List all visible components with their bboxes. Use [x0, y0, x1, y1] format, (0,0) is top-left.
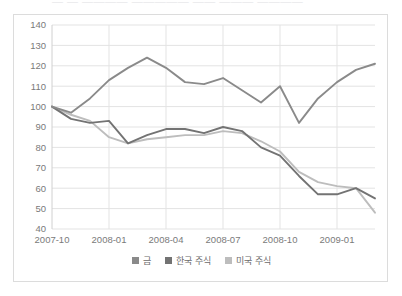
- legend-item-korea-stocks[interactable]: 한국 주식: [165, 254, 211, 267]
- plot-area: 4050607080901001101201301402007-102008-0…: [14, 15, 389, 255]
- y-axis-tick-label: 120: [30, 60, 46, 71]
- y-axis-tick-label: 70: [35, 162, 46, 173]
- legend-swatch-icon: [165, 257, 172, 264]
- x-axis-tick-label: 2008-07: [206, 234, 241, 245]
- chart-legend: 금 한국 주식 미국 주식: [14, 254, 389, 267]
- y-axis-tick-label: 100: [30, 101, 46, 112]
- x-axis-tick-label: 2009-01: [320, 234, 355, 245]
- clipped-header-strip: — — ———— ————— —— ——— ————: [0, 0, 402, 12]
- line-chart: 4050607080901001101201301402007-102008-0…: [14, 15, 389, 255]
- y-axis-tick-label: 140: [30, 19, 46, 30]
- x-axis-tick-label: 2007-10: [35, 234, 70, 245]
- legend-swatch-icon: [225, 257, 232, 264]
- y-axis-tick-label: 130: [30, 40, 46, 51]
- legend-label: 금: [143, 254, 151, 267]
- y-axis-tick-label: 60: [35, 183, 46, 194]
- x-axis-tick-label: 2008-01: [92, 234, 127, 245]
- y-axis-tick-label: 110: [31, 81, 46, 92]
- clipped-header-text: — — ———— ————— —— ——— ————: [0, 0, 402, 7]
- x-axis-tick-label: 2008-04: [149, 234, 184, 245]
- legend-item-gold[interactable]: 금: [132, 254, 151, 267]
- y-axis-tick-label: 50: [35, 203, 46, 214]
- y-axis-tick-label: 80: [35, 142, 46, 153]
- legend-swatch-icon: [132, 257, 139, 264]
- chart-card: 4050607080901001101201301402007-102008-0…: [13, 14, 388, 282]
- chart-screenshot: — — ———— ————— —— ——— ———— 4050607080901…: [0, 0, 402, 296]
- legend-item-us-stocks[interactable]: 미국 주식: [225, 254, 271, 267]
- legend-label: 미국 주식: [236, 254, 271, 267]
- legend-label: 한국 주식: [176, 254, 211, 267]
- x-axis-tick-label: 2008-10: [263, 234, 298, 245]
- y-axis-tick-label: 40: [35, 223, 46, 234]
- y-axis-tick-label: 90: [35, 121, 46, 132]
- series-line: [52, 58, 375, 123]
